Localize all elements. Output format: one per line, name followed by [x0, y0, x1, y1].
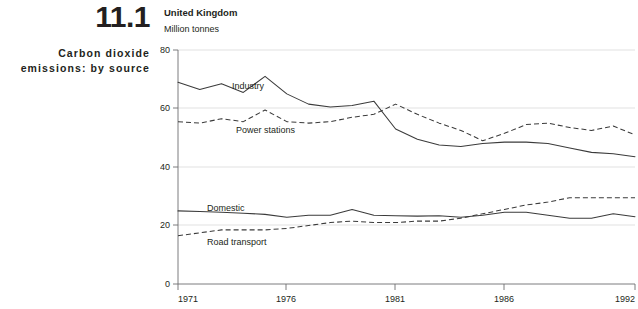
- x-tick-label-1986: 1986: [494, 294, 514, 304]
- series-label-power-stations: Power stations: [236, 125, 296, 135]
- series-label-domestic: Domestic: [207, 203, 245, 213]
- y-tick-label-20: 20: [160, 220, 170, 230]
- data-series: [178, 76, 635, 235]
- line-chart-svg: 80 60 40 20 0 1971 1976: [160, 0, 638, 309]
- series-line-domestic: [178, 209, 635, 218]
- gridlines: [178, 50, 635, 225]
- figure-heading-block: 11.1 Carbon dioxide emissions: by source: [0, 0, 160, 309]
- chart-block: United Kingdom Million tonnes: [160, 0, 638, 309]
- x-tick-label-1971: 1971: [178, 294, 198, 304]
- x-tick-labels: 1971 1976 1981 1986 1992: [178, 294, 635, 304]
- y-tick-label-0: 0: [165, 279, 170, 289]
- series-label-road-transport: Road transport: [207, 237, 267, 247]
- x-tick-marks: [178, 284, 635, 290]
- x-tick-label-1976: 1976: [276, 294, 296, 304]
- figure-number: 11.1: [95, 2, 150, 32]
- plot-area: 80 60 40 20 0 1971 1976: [160, 0, 638, 309]
- y-tick-label-80: 80: [160, 45, 170, 55]
- y-tick-marks: [173, 50, 178, 284]
- y-tick-label-60: 60: [160, 103, 170, 113]
- y-tick-label-40: 40: [160, 162, 170, 172]
- x-tick-label-1992: 1992: [615, 294, 635, 304]
- y-tick-labels: 80 60 40 20 0: [160, 45, 170, 289]
- series-line-power-stations: [178, 104, 635, 141]
- series-label-industry: Industry: [232, 81, 265, 91]
- figure-title: Carbon dioxide emissions: by source: [2, 46, 150, 76]
- series-line-road-transport: [178, 198, 635, 236]
- figure-page: 11.1 Carbon dioxide emissions: by source…: [0, 0, 638, 309]
- x-tick-label-1981: 1981: [385, 294, 405, 304]
- series-labels: Industry Power stations Domestic Road tr…: [207, 81, 296, 247]
